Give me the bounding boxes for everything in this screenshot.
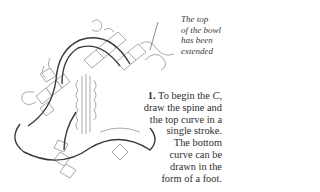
annotation-line: of the bowl bbox=[181, 25, 224, 36]
annotation-caption: The top of the bowl has been extended bbox=[181, 14, 224, 56]
annotation-line: extended bbox=[181, 46, 224, 57]
annotation-line: The top bbox=[181, 14, 224, 25]
annotation-line: has been bbox=[181, 35, 224, 46]
instruction-text: 1. To begin the C, draw the spine and th… bbox=[82, 90, 222, 184]
step-number: 1. bbox=[148, 90, 156, 101]
